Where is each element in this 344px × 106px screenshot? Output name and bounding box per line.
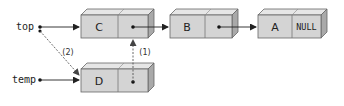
node-b: B <box>170 9 238 38</box>
node-a-null: NULL <box>296 22 316 32</box>
step2-label: (2) <box>62 48 73 57</box>
temp-pointer-label: temp <box>12 74 36 85</box>
step1-label: (1) <box>139 48 150 57</box>
linked-list-diagram: C B A NULL D top temp <box>0 0 344 106</box>
node-a-data: A <box>271 21 279 34</box>
node-c-data: C <box>95 21 103 34</box>
node-b-data: B <box>183 21 191 34</box>
node-c: C <box>81 9 154 38</box>
node-d: D <box>81 63 154 92</box>
node-d-data: D <box>95 75 103 88</box>
top-pointer-label: top <box>16 21 34 32</box>
node-a: A NULL <box>258 9 327 38</box>
